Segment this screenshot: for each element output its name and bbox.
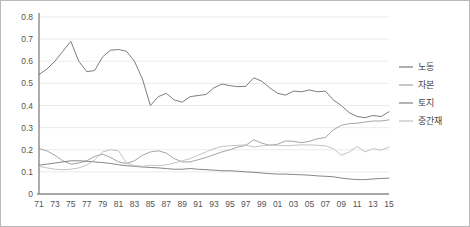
data-series-group bbox=[39, 41, 389, 179]
x-tick-label: 11 bbox=[353, 199, 362, 209]
x-tick-label: 07 bbox=[321, 199, 331, 209]
x-tick-label: 95 bbox=[225, 199, 235, 209]
x-tick-label: 03 bbox=[289, 199, 299, 209]
y-tick-label: 0.5 bbox=[21, 78, 33, 88]
series-line bbox=[39, 145, 389, 170]
chart-area: 00.10.20.30.40.50.60.70.8 71737577798183… bbox=[1, 1, 470, 227]
x-tick-label: 83 bbox=[130, 199, 140, 209]
y-tick-label: 0.2 bbox=[21, 145, 33, 155]
y-tick-label: 0.1 bbox=[21, 167, 33, 177]
y-tick-label: 0.4 bbox=[21, 101, 33, 111]
y-tick-label: 0 bbox=[28, 189, 33, 199]
y-axis-tick-labels: 00.10.20.30.40.50.60.70.8 bbox=[21, 12, 33, 199]
x-tick-label: 91 bbox=[193, 199, 203, 209]
x-tick-label: 15 bbox=[384, 199, 394, 209]
series-line bbox=[39, 161, 389, 180]
x-tick-label: 93 bbox=[209, 199, 219, 209]
legend: 노동자본토지중간재 bbox=[399, 62, 442, 126]
x-tick-label: 77 bbox=[82, 199, 92, 209]
series-line bbox=[39, 120, 389, 164]
y-tick-label: 0.3 bbox=[21, 123, 33, 133]
x-tick-label: 85 bbox=[146, 199, 156, 209]
x-tick-label: 87 bbox=[162, 199, 172, 209]
x-tick-label: 73 bbox=[50, 199, 60, 209]
x-axis-tick-labels: 7173757779818385878991939597990103050709… bbox=[34, 199, 394, 209]
x-tick-label: 01 bbox=[273, 199, 283, 209]
y-tick-label: 0.6 bbox=[21, 56, 33, 66]
legend-label: 토지 bbox=[418, 98, 434, 108]
y-tick-label: 0.8 bbox=[21, 12, 33, 22]
x-tick-label: 99 bbox=[257, 199, 267, 209]
x-tick-label: 79 bbox=[98, 199, 108, 209]
y-tick-label: 0.7 bbox=[21, 34, 33, 44]
legend-label: 중간재 bbox=[418, 116, 442, 126]
x-tick-label: 81 bbox=[114, 199, 124, 209]
line-chart: 00.10.20.30.40.50.60.70.8 71737577798183… bbox=[1, 1, 470, 227]
x-tick-label: 09 bbox=[337, 199, 347, 209]
x-tick-label: 97 bbox=[241, 199, 251, 209]
axes bbox=[37, 13, 389, 194]
x-tick-label: 75 bbox=[66, 199, 76, 209]
x-tick-label: 71 bbox=[34, 199, 44, 209]
legend-label: 자본 bbox=[418, 80, 434, 90]
x-tick-label: 89 bbox=[177, 199, 187, 209]
legend-label: 노동 bbox=[418, 62, 434, 72]
x-tick-label: 13 bbox=[368, 199, 378, 209]
chart-frame: 00.10.20.30.40.50.60.70.8 71737577798183… bbox=[0, 0, 470, 227]
series-line bbox=[39, 41, 389, 117]
x-tick-label: 05 bbox=[305, 199, 315, 209]
